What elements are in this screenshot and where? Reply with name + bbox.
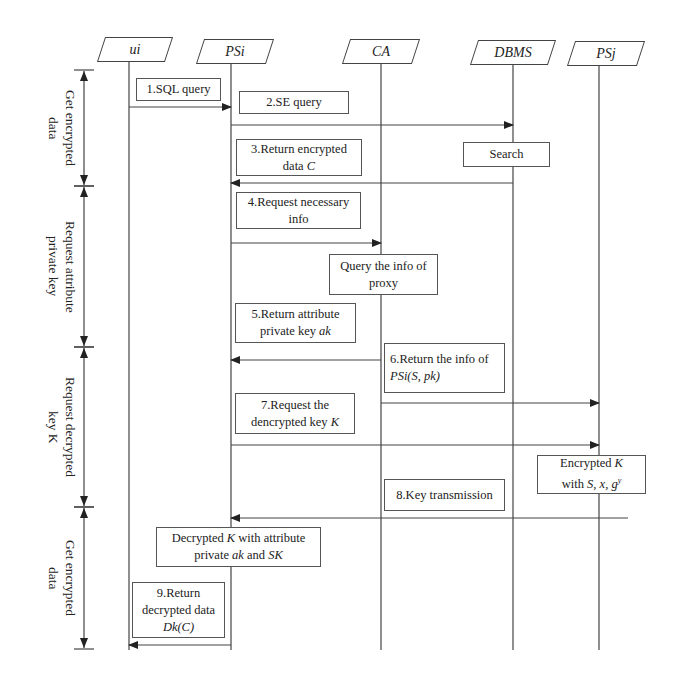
note-return-decrypted-data: 9.Return decrypted data Dk(C) <box>132 582 225 638</box>
note-variable: K <box>615 456 623 470</box>
note-text: 1.SQL query <box>137 81 220 98</box>
note-variable: Dk(C) <box>163 620 194 634</box>
actor-ui: ui <box>101 37 169 62</box>
note-request-decrypted-key: 7.Request the dencrypted key K <box>235 393 355 434</box>
note-text: Query the info of <box>330 258 437 275</box>
note-text-part: and <box>244 548 268 562</box>
note-variable: K <box>331 415 339 429</box>
note-text: data C <box>237 158 361 175</box>
note-text: 5.Return attribute <box>236 306 355 323</box>
note-text-part: with <box>562 478 587 492</box>
note-text-part: Decrypted <box>172 531 227 545</box>
note-superscript: y <box>618 476 622 485</box>
note-return-encrypted-data: 3.Return encrypted data C <box>236 139 362 176</box>
note-text: 9.Return <box>133 585 224 602</box>
note-text-part: dencrypted key <box>251 415 331 429</box>
actor-psi: PSi <box>200 39 270 64</box>
note-return-attribute-key: 5.Return attribute private key ak <box>235 303 356 343</box>
note-text: 6.Return the info of <box>390 351 504 368</box>
phase-label-get-encrypted-data-2: Get encrypted data <box>44 507 80 649</box>
actor-label: PSi <box>200 39 270 64</box>
note-sql-query: 1.SQL query <box>136 78 221 101</box>
actor-dbms: DBMS <box>474 40 552 65</box>
note-text-part: private <box>194 548 232 562</box>
note-text: 4.Request necessary <box>237 194 360 211</box>
note-key-transmission: 8.Key transmission <box>384 479 505 511</box>
note-text-part: data <box>283 159 307 173</box>
note-text: Dk(C) <box>133 619 224 636</box>
note-text: Encrypted K <box>538 455 645 472</box>
note-text: Decrypted K with attribute <box>157 530 320 547</box>
note-text: with S, x, gy <box>538 472 645 493</box>
note-text: Search <box>464 146 549 163</box>
actor-label: PSj <box>571 41 641 66</box>
note-text: dencrypted key K <box>236 414 354 431</box>
note-variable: ak <box>232 548 244 562</box>
actor-label: DBMS <box>474 40 552 65</box>
note-text: 2.SE query <box>240 94 348 111</box>
note-variable: K <box>227 531 235 545</box>
note-text: private ak and SK <box>157 547 320 564</box>
actor-label: ui <box>101 37 169 62</box>
note-return-info-psi: 6.Return the info of PSi(S, pk) <box>384 343 505 393</box>
note-variable: C <box>307 159 315 173</box>
note-variable: ak <box>319 324 331 338</box>
note-search: Search <box>463 142 550 167</box>
note-request-necessary-info: 4.Request necessary info <box>236 192 361 229</box>
note-text-part: private key <box>260 324 319 338</box>
note-query-proxy-info: Query the info of proxy <box>329 254 438 295</box>
note-text: private key ak <box>236 323 355 340</box>
actor-ca: CA <box>346 39 416 64</box>
note-text: info <box>237 211 360 228</box>
note-variable: S, x, g <box>587 478 618 492</box>
note-variable: PSi(S, pk) <box>390 369 440 383</box>
note-se-query: 2.SE query <box>239 91 349 114</box>
actor-psj: PSj <box>571 41 641 66</box>
note-text: PSi(S, pk) <box>390 368 504 385</box>
note-text: 3.Return encrypted <box>237 141 361 158</box>
note-decrypted-k: Decrypted K with attribute private ak an… <box>156 527 321 567</box>
phase-label-request-decrypted-key: Request decrypted key K <box>44 347 80 507</box>
note-text: 8.Key transmission <box>385 487 504 504</box>
note-encrypted-k: Encrypted K with S, x, gy <box>537 455 646 494</box>
note-variable: SK <box>268 548 283 562</box>
note-text: decrypted data <box>133 602 224 619</box>
actor-label: CA <box>346 39 416 64</box>
phase-label-get-encrypted-data-1: Get encrypted data <box>44 70 80 186</box>
note-text-part: Encrypted <box>560 456 615 470</box>
phase-label-request-attribute-private-key: Request attribute private key <box>44 186 80 347</box>
note-text-part: with attribute <box>235 531 305 545</box>
note-text: proxy <box>330 275 437 292</box>
note-text: 7.Request the <box>236 397 354 414</box>
